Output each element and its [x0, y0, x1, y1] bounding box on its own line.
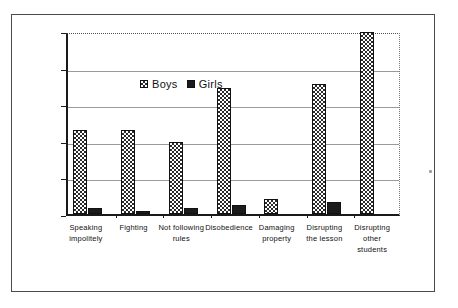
bar-boys-3 — [217, 88, 231, 214]
legend-label-girls: Girls — [199, 78, 223, 90]
x-tick-mark — [163, 214, 164, 218]
x-category-label-line: Disrupting — [348, 222, 396, 233]
legend-entry-boys: Boys — [140, 78, 178, 90]
x-category-label: Not followingrules — [157, 222, 205, 244]
bar-boys-6 — [360, 32, 374, 214]
y-tick-mark — [61, 33, 66, 34]
x-category-label: Disruptingthe lesson — [301, 222, 349, 244]
x-category-label: Fighting — [110, 222, 158, 233]
gridline — [68, 180, 399, 181]
y-tick-mark — [61, 106, 66, 107]
x-category-label-line: other — [348, 233, 396, 244]
y-tick-mark — [61, 143, 66, 144]
chart-legend: Boys Girls — [140, 78, 223, 90]
x-tick-mark — [116, 214, 117, 218]
x-category-label-line: Speaking — [62, 222, 110, 233]
gridline — [68, 144, 399, 145]
bar-girls-2 — [184, 208, 198, 214]
gridline — [68, 107, 399, 108]
x-category-label-line: students — [348, 244, 396, 255]
legend-label-boys: Boys — [152, 78, 178, 90]
x-category-label-line: property — [253, 233, 301, 244]
y-tick-mark — [61, 70, 66, 71]
legend-swatch-boys-icon — [140, 80, 148, 88]
y-tick-mark — [61, 179, 66, 180]
x-category-label: Damagingproperty — [253, 222, 301, 244]
bar-boys-2 — [169, 142, 183, 214]
bar-girls-3 — [232, 205, 246, 214]
bar-boys-4 — [264, 199, 278, 214]
x-category-label-line: Not following — [157, 222, 205, 233]
x-category-label-line: Fighting — [110, 222, 158, 233]
legend-entry-girls: Girls — [187, 78, 223, 90]
x-category-label-line: rules — [157, 233, 205, 244]
gridline — [68, 71, 399, 72]
x-category-label-line: Disrupting — [301, 222, 349, 233]
bar-boys-0 — [73, 130, 87, 214]
chart-figure: % of all Disruptions Boys Girls 25201510… — [0, 0, 458, 308]
x-tick-mark — [354, 214, 355, 218]
scan-artifact-speck — [429, 170, 432, 173]
plot-area: Boys Girls — [66, 33, 400, 216]
y-tick-mark — [61, 216, 66, 217]
bar-girls-1 — [136, 211, 150, 214]
x-category-label: Disobedience — [205, 222, 253, 233]
bar-boys-1 — [121, 130, 135, 214]
bar-girls-0 — [88, 208, 102, 214]
legend-swatch-girls-icon — [187, 80, 195, 88]
bar-boys-5 — [312, 84, 326, 214]
x-category-label: Disruptingotherstudents — [348, 222, 396, 255]
x-tick-mark — [211, 214, 212, 218]
x-category-label-line: the lesson — [301, 233, 349, 244]
x-category-label-line: impolitely — [62, 233, 110, 244]
x-category-label-line: Disobedience — [205, 222, 253, 233]
x-tick-mark — [259, 214, 260, 218]
x-category-label-line: Damaging — [253, 222, 301, 233]
x-tick-mark — [307, 214, 308, 218]
bar-girls-5 — [327, 202, 341, 214]
x-category-label: Speakingimpolitely — [62, 222, 110, 244]
